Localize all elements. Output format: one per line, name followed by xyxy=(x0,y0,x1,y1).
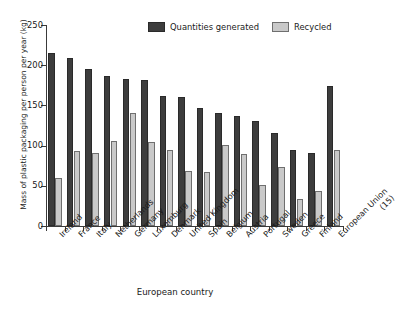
bar-recycled xyxy=(111,141,118,226)
bar-group xyxy=(252,25,266,226)
bar-quantities-generated xyxy=(48,53,55,226)
bar-quantities-generated xyxy=(104,76,111,226)
bar-group xyxy=(160,25,174,226)
x-tick-label: European Union (15) xyxy=(336,186,396,246)
bar-group xyxy=(197,25,211,226)
bar-group xyxy=(48,25,62,226)
bar-quantities-generated xyxy=(67,58,74,226)
bar-group xyxy=(308,25,322,226)
bar-recycled xyxy=(55,178,62,226)
x-axis-title: European country xyxy=(0,287,350,297)
bar-quantities-generated xyxy=(85,69,92,226)
bar-group xyxy=(271,25,285,226)
y-tick-label: 0 xyxy=(19,221,43,231)
bar-group xyxy=(290,25,304,226)
bar-group xyxy=(85,25,99,226)
plot-area: 050100150200250 xyxy=(46,25,343,226)
bar-group xyxy=(123,25,137,226)
bar-group xyxy=(67,25,81,226)
y-tick-label: 100 xyxy=(19,140,43,150)
x-tick-mark xyxy=(46,226,47,231)
bar-quantities-generated xyxy=(271,133,278,226)
y-tick-label: 250 xyxy=(19,20,43,30)
bar-quantities-generated xyxy=(327,86,334,226)
bar-group xyxy=(104,25,118,226)
bar-group xyxy=(178,25,192,226)
bar-group xyxy=(327,25,341,226)
bar-quantities-generated xyxy=(123,79,130,226)
y-tick-label: 50 xyxy=(19,180,43,190)
y-tick-label: 150 xyxy=(19,100,43,110)
y-tick-label: 200 xyxy=(19,60,43,70)
bar-recycled xyxy=(222,145,229,226)
y-axis-line xyxy=(46,25,47,226)
bar-quantities-generated xyxy=(252,121,259,226)
bar-quantities-generated xyxy=(234,116,241,226)
